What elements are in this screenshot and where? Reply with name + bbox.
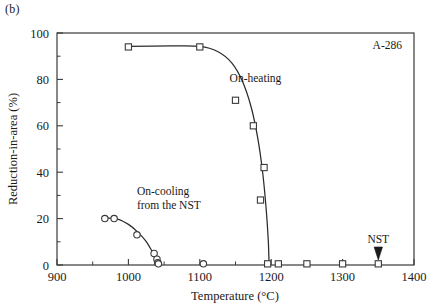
sample-id-label: A-286 bbox=[373, 39, 403, 51]
figure-panel-b: (b) 90010001100120013001400 020406080100… bbox=[0, 0, 436, 307]
y-tick-label: 100 bbox=[30, 27, 49, 41]
data-point-circle bbox=[102, 215, 108, 221]
data-point-square bbox=[261, 164, 267, 170]
data-point-circle bbox=[155, 261, 161, 267]
x-tick-label: 900 bbox=[48, 270, 67, 284]
panel-label: (b) bbox=[5, 2, 20, 17]
data-point-square bbox=[125, 44, 131, 50]
on-cooling-label-line2: from the NST bbox=[137, 199, 201, 211]
series-curve-2 bbox=[105, 218, 159, 265]
y-tick-label: 60 bbox=[37, 119, 50, 133]
y-tick-label: 40 bbox=[37, 166, 50, 180]
x-tick-label: 1100 bbox=[188, 270, 213, 284]
x-axis-tick-labels: 90010001100120013001400 bbox=[48, 270, 427, 284]
x-tick-label: 1200 bbox=[259, 270, 284, 284]
data-point-square bbox=[250, 123, 256, 129]
data-point-square bbox=[340, 261, 346, 267]
data-point-square bbox=[304, 261, 310, 267]
data-point-circle bbox=[134, 232, 140, 238]
data-point-square bbox=[265, 261, 271, 267]
reduction-in-area-vs-temperature-chart: 90010001100120013001400 020406080100 On-… bbox=[0, 0, 436, 307]
on-heating-label: On-heating bbox=[230, 72, 282, 85]
y-tick-label: 80 bbox=[37, 73, 50, 87]
data-point-square bbox=[232, 97, 238, 103]
y-axis-title: Reduction-in-area (%) bbox=[6, 93, 20, 205]
x-tick-label: 1400 bbox=[402, 270, 427, 284]
y-axis-ticks bbox=[57, 33, 63, 265]
data-point-circle bbox=[111, 215, 117, 221]
y-tick-label: 20 bbox=[37, 212, 50, 226]
on-cooling-label: On-coolingfrom the NST bbox=[137, 185, 201, 211]
nst-down-triangle-icon bbox=[374, 247, 382, 260]
on-cooling-label-line1: On-cooling bbox=[137, 185, 190, 198]
x-axis-title: Temperature (°C) bbox=[191, 289, 279, 303]
data-point-square bbox=[257, 197, 263, 203]
data-point-square bbox=[275, 261, 281, 267]
y-tick-label: 0 bbox=[43, 259, 49, 273]
x-axis-ticks bbox=[57, 259, 414, 265]
nst-label: NST bbox=[367, 233, 389, 245]
y-axis-tick-labels: 020406080100 bbox=[30, 27, 49, 273]
x-tick-label: 1000 bbox=[116, 270, 141, 284]
data-point-square bbox=[375, 261, 381, 267]
x-tick-label: 1300 bbox=[330, 270, 355, 284]
data-point-square bbox=[197, 44, 203, 50]
data-point-circle bbox=[200, 261, 206, 267]
